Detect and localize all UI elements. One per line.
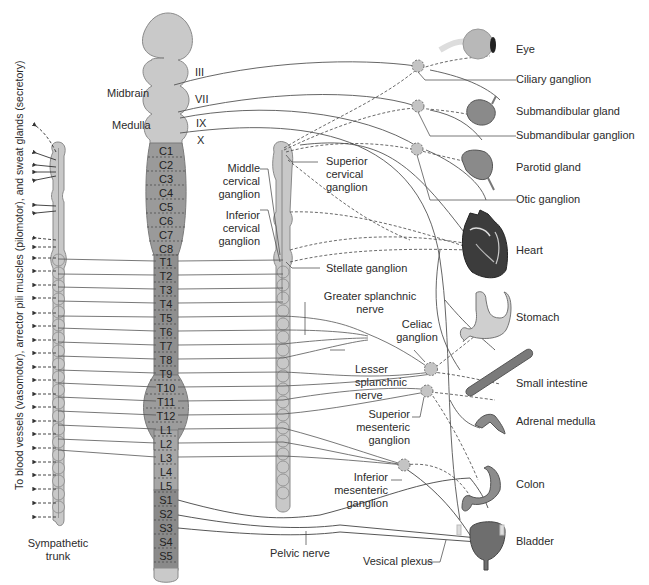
- preganglionic-lines-right: [178, 260, 283, 457]
- superior-mesenteric-line3: ganglion: [355, 434, 410, 447]
- cranial-nerve-iii-label: III: [195, 66, 204, 79]
- organ-colon: [462, 466, 500, 511]
- inferior-cervical-line1: Inferior: [212, 209, 260, 222]
- celiac-ganglion-shape: [425, 363, 438, 376]
- sympathetic-trunk-label-line1: Sympathetic: [18, 537, 98, 550]
- segment-l2: L2: [151, 438, 181, 450]
- segment-t5: T5: [151, 312, 181, 324]
- segment-t1: T1: [151, 256, 181, 268]
- segment-s2: S2: [151, 508, 181, 520]
- organ-eye: [440, 29, 496, 59]
- lesser-splanchnic-line1: Lesser: [355, 363, 407, 376]
- midbrain-label: Midbrain: [107, 87, 149, 100]
- organ-parotid-gland: [462, 150, 494, 190]
- superior-cervical-line1: Superior: [326, 155, 368, 168]
- parotid-gland-label: Parotid gland: [516, 161, 581, 174]
- segment-c1: C1: [151, 145, 181, 157]
- segment-t10: T10: [151, 382, 181, 394]
- sympathetic-trunk-label-line2: trunk: [18, 550, 98, 563]
- small-intestine-label: Small intestine: [516, 377, 588, 390]
- celiac-line1: Celiac: [392, 318, 442, 331]
- inferior-cervical-ganglion-label: Inferior cervical ganglion: [212, 209, 260, 248]
- segment-c2: C2: [151, 159, 181, 171]
- segment-t9: T9: [151, 368, 181, 380]
- segment-l1: L1: [151, 424, 181, 436]
- inferior-mesenteric-ganglion-shape: [398, 459, 410, 471]
- submandibular-ganglion-label: Submandibular ganglion: [516, 129, 635, 142]
- otic-ganglion-shape: [411, 143, 423, 155]
- inferior-mesenteric-line2: mesenteric: [330, 484, 388, 497]
- eye-label: Eye: [516, 43, 535, 56]
- sympathetic-trunk-label: Sympathetic trunk: [18, 537, 98, 563]
- greater-splanchnic-line1: Greater splanchnic: [320, 290, 420, 303]
- celiac-line2: ganglion: [392, 331, 442, 344]
- superior-mesenteric-line2: mesenteric: [355, 421, 410, 434]
- celiac-ganglion-label: Celiac ganglion: [392, 318, 442, 344]
- cranial-nerve-x-label: X: [197, 134, 204, 147]
- adrenal-medulla-label: Adrenal medulla: [516, 415, 596, 428]
- organ-heart: [462, 210, 507, 278]
- superior-cervical-line3: ganglion: [326, 181, 368, 194]
- superior-mesenteric-ganglion-label: Superior mesenteric ganglion: [355, 408, 410, 447]
- submandibular-ganglion-shape: [412, 100, 424, 112]
- organ-adrenal-medulla: [475, 414, 505, 434]
- middle-cervical-ganglion-label: Middle cervical ganglion: [212, 162, 260, 201]
- lesser-splanchnic-line3: nerve: [355, 389, 407, 402]
- preganglionic-lines-left: [58, 259, 156, 457]
- ciliary-ganglion-shape: [412, 60, 424, 72]
- segment-t6: T6: [151, 326, 181, 338]
- segment-c6: C6: [151, 215, 181, 227]
- middle-cervical-line2: cervical: [212, 175, 260, 188]
- segment-s3: S3: [151, 522, 181, 534]
- stellate-ganglion-label: Stellate ganglion: [326, 262, 407, 275]
- heart-label: Heart: [516, 244, 543, 257]
- segment-t2: T2: [151, 270, 181, 282]
- medulla-label: Medulla: [112, 119, 151, 132]
- autonomic-nervous-system-diagram: Midbrain Medulla III VII IX X C1 C2 C3 C…: [0, 0, 649, 585]
- segment-t4: T4: [151, 298, 181, 310]
- effector-targets-vertical-label: To blood vessels (vasomotor), arrector p…: [13, 61, 25, 491]
- inferior-cervical-line3: ganglion: [212, 235, 260, 248]
- cranial-nerve-ix-label: IX: [196, 117, 206, 130]
- cranial-nerve-vii-label: VII: [195, 93, 208, 106]
- segment-t3: T3: [151, 284, 181, 296]
- organ-submandibular-gland: [467, 96, 496, 125]
- segment-c5: C5: [151, 201, 181, 213]
- bladder-label: Bladder: [516, 535, 554, 548]
- submandibular-gland-label: Submandibular gland: [516, 105, 620, 118]
- superior-mesenteric-line1: Superior: [355, 408, 410, 421]
- inferior-mesenteric-ganglion-label: Inferior mesenteric ganglion: [330, 471, 388, 510]
- segment-c3: C3: [151, 173, 181, 185]
- middle-cervical-line1: Middle: [212, 162, 260, 175]
- colon-label: Colon: [516, 478, 545, 491]
- pelvic-nerve-label: Pelvic nerve: [270, 547, 330, 560]
- segment-l3: L3: [151, 452, 181, 464]
- inferior-mesenteric-line3: ganglion: [330, 497, 388, 510]
- segment-c4: C4: [151, 187, 181, 199]
- segment-s1: S1: [151, 494, 181, 506]
- lesser-splanchnic-nerve-label: Lesser splanchnic nerve: [355, 363, 407, 402]
- left-sympathetic-trunk: [36, 126, 66, 526]
- greater-splanchnic-nerve-label: Greater splanchnic nerve: [320, 290, 420, 316]
- organ-stomach: [460, 292, 511, 342]
- middle-cervical-line3: ganglion: [212, 188, 260, 201]
- greater-splanchnic-line2: nerve: [320, 303, 420, 316]
- vesical-plexus-label: Vesical plexus: [363, 555, 433, 568]
- inferior-mesenteric-line1: Inferior: [330, 471, 388, 484]
- superior-mesenteric-ganglion-shape: [421, 385, 433, 397]
- segment-t8: T8: [151, 354, 181, 366]
- superior-cervical-ganglion-label: Superior cervical ganglion: [326, 155, 368, 194]
- segment-t12: T12: [151, 410, 181, 422]
- superior-cervical-line2: cervical: [326, 168, 368, 181]
- segment-l5: L5: [151, 480, 181, 492]
- ciliary-ganglion-label: Ciliary ganglion: [516, 73, 591, 86]
- segment-s4: S4: [151, 536, 181, 548]
- otic-ganglion-label: Otic ganglion: [516, 193, 580, 206]
- segment-s5: S5: [151, 550, 181, 562]
- organ-bladder: [457, 522, 505, 570]
- stomach-label: Stomach: [516, 311, 559, 324]
- segment-c7: C7: [151, 229, 181, 241]
- segment-l4: L4: [151, 466, 181, 478]
- lesser-splanchnic-line2: splanchnic: [355, 376, 407, 389]
- inferior-cervical-line2: cervical: [212, 222, 260, 235]
